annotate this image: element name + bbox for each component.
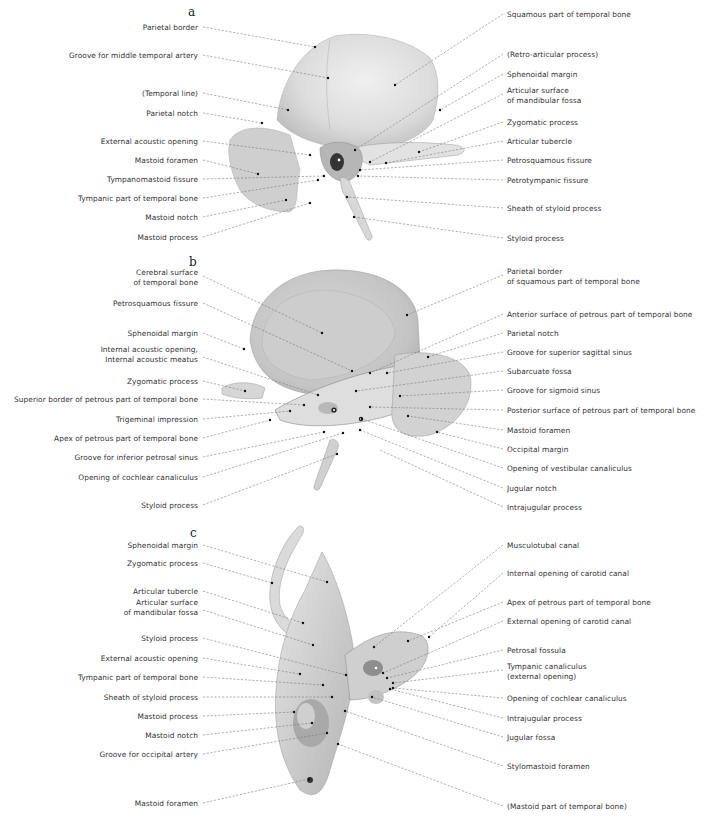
label-c-left-3: Articular surfaceof mandibular fossa xyxy=(124,598,198,618)
bone-illustration-c xyxy=(270,526,428,795)
label-b-left-7: Apex of petrous part of temporal bone xyxy=(54,434,198,444)
bone-illustration-a xyxy=(229,34,464,240)
label-c-left-2: Articular tubercle xyxy=(133,587,198,597)
label-b-right-1: Anterior surface of petrous part of temp… xyxy=(507,310,692,320)
label-a-left-1: Groove for middle temporal artery xyxy=(69,51,198,61)
label-b-left-10: Styloid process xyxy=(141,501,198,511)
label-c-left-6: Tympanic part of temporal bone xyxy=(78,673,198,683)
label-c-left-1: Zygomatic process xyxy=(127,559,198,569)
label-c-right-9: Stylomastoid foramen xyxy=(507,762,590,772)
label-c-left-8: Mastoid process xyxy=(138,712,198,722)
panel-letter-c: c xyxy=(190,527,197,539)
panel-letter-b: b xyxy=(189,256,197,268)
label-c-right-3: External opening of carotid canal xyxy=(507,617,631,627)
label-a-left-3: Parietal notch xyxy=(146,109,198,119)
label-b-left-8: Groove for inferior petrosal sinus xyxy=(75,453,198,463)
label-a-right-5: Articular tubercle xyxy=(507,137,572,147)
label-a-right-4: Zygomatic process xyxy=(507,118,578,128)
label-b-left-0: Cerebral surfaceof temporal bone xyxy=(133,268,198,288)
label-b-left-1: Petrosquamous fissure xyxy=(113,299,198,309)
label-c-right-5: Tympanic canaliculus(external opening) xyxy=(507,662,587,682)
label-b-left-9: Opening of cochlear canaliculus xyxy=(78,473,198,483)
label-a-right-1: (Retro-articular process) xyxy=(507,50,598,60)
label-a-left-4: External acoustic opening xyxy=(101,137,198,147)
label-a-left-2: (Temporal line) xyxy=(142,89,198,99)
label-c-left-10: Groove for occipital artery xyxy=(100,750,198,760)
panel-letter-a: a xyxy=(188,6,195,18)
label-c-right-10: (Mastoid part of temporal bone) xyxy=(507,802,627,812)
label-c-right-0: Musculotubal canal xyxy=(507,541,579,551)
label-c-left-0: Sphenoidal margin xyxy=(128,541,198,551)
label-a-right-0: Squamous part of temporal bone xyxy=(507,10,631,20)
label-c-right-6: Opening of cochlear canaliculus xyxy=(507,694,627,704)
label-c-left-9: Mastoid notch xyxy=(145,731,198,741)
temporal-bone-figure xyxy=(0,0,709,836)
label-b-right-2: Parietal notch xyxy=(507,329,559,339)
label-b-left-5: Superior border of petrous part of tempo… xyxy=(14,395,198,405)
label-b-right-7: Mastoid foramen xyxy=(507,426,570,436)
label-b-right-0: Parietal borderof squamous part of tempo… xyxy=(507,267,640,287)
label-c-left-7: Sheath of styloid process xyxy=(104,693,198,703)
label-b-right-8: Occipital margin xyxy=(507,445,568,455)
label-c-right-7: Intrajugular process xyxy=(507,714,582,724)
label-a-right-9: Styloid process xyxy=(507,234,564,244)
label-a-right-3: Articular surfaceof mandibular fossa xyxy=(507,86,581,106)
label-c-right-8: Jugular fossa xyxy=(507,733,555,743)
label-b-right-5: Groove for sigmoid sinus xyxy=(507,386,600,396)
label-c-left-4: Styloid process xyxy=(141,634,198,644)
label-a-left-7: Tympanic part of temporal bone xyxy=(78,194,198,204)
label-b-right-3: Groove for superior sagittal sinus xyxy=(507,348,632,358)
label-a-right-7: Petrotympanic fissure xyxy=(507,176,588,186)
label-a-right-2: Sphenoidal margin xyxy=(507,70,577,80)
label-b-right-4: Subarcuate fossa xyxy=(507,367,572,377)
label-c-right-4: Petrosal fossula xyxy=(507,646,566,656)
label-a-left-0: Parietal border xyxy=(143,23,198,33)
label-b-left-3: Internal acoustic opening,Internal acous… xyxy=(101,345,198,365)
label-a-left-8: Mastoid notch xyxy=(145,213,198,223)
label-a-right-8: Sheath of styloid process xyxy=(507,204,601,214)
label-b-right-11: Intrajugular process xyxy=(507,503,582,513)
label-c-left-5: External acoustic opening xyxy=(101,654,198,664)
label-b-right-10: Jugular notch xyxy=(507,484,557,494)
label-b-left-4: Zygomatic process xyxy=(127,377,198,387)
label-a-right-6: Petrosquamous fissure xyxy=(507,156,592,166)
label-c-right-2: Apex of petrous part of temporal bone xyxy=(507,598,651,608)
label-a-left-9: Mastoid process xyxy=(138,233,198,243)
label-b-left-6: Trigeminal impression xyxy=(116,415,198,425)
label-c-right-1: Internal opening of carotid canal xyxy=(507,569,629,579)
label-b-right-6: Posterior surface of petrous part of tem… xyxy=(507,406,695,416)
label-a-left-5: Mastoid foramen xyxy=(135,156,198,166)
label-b-right-9: Opening of vestibular canaliculus xyxy=(507,464,632,474)
label-c-left-11: Mastoid foramen xyxy=(135,799,198,809)
label-a-left-6: Tympanomastoid fissure xyxy=(107,175,198,185)
label-b-left-2: Sphenoidal margin xyxy=(128,329,198,339)
